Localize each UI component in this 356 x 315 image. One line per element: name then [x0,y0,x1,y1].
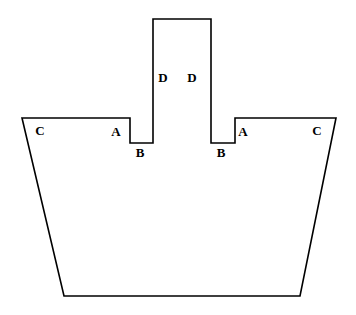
vertex-label-b-right: B [217,146,226,159]
vertex-label-b-left: B [136,146,145,159]
figure-canvas [0,0,356,315]
vertex-label-c-left: C [35,124,44,137]
geometry-figure: C A B D D B A C [0,0,356,315]
vertex-label-a-right: A [238,125,247,138]
vertex-label-a-left: A [111,125,120,138]
shape-outline-polygon [22,19,336,296]
vertex-label-c-right: C [312,124,321,137]
vertex-label-d-right: D [187,71,196,84]
vertex-label-d-left: D [158,71,167,84]
